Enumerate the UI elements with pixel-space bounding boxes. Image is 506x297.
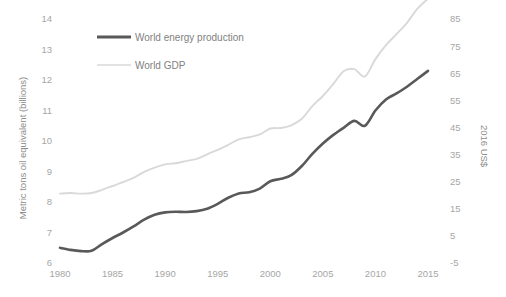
y-axis-right-title: 2016 US$ (479, 125, 490, 168)
y-left-tick-label: 10 (41, 135, 52, 146)
legend-label-1: World energy production (135, 32, 244, 43)
y-right-tick-label: 5 (450, 230, 455, 241)
y-left-tick-label: 8 (47, 196, 52, 207)
y-right-tick-label: 15 (450, 203, 461, 214)
dual-axis-line-chart: 67891011121314 -551525354555657585 19801… (0, 0, 506, 297)
y-left-tick-label: 14 (41, 13, 52, 24)
y-right-tick-label: -5 (450, 257, 458, 268)
chart-container: 67891011121314 -551525354555657585 19801… (0, 0, 506, 297)
y-left-tick-label: 7 (47, 227, 52, 238)
x-tick-label: 1985 (102, 268, 123, 279)
x-tick-label: 1990 (155, 268, 176, 279)
legend-label-2: World GDP (135, 60, 186, 71)
y-right-tick-label: 85 (450, 13, 461, 24)
y-right-tick-label: 25 (450, 176, 461, 187)
y-right-tick-label: 55 (450, 95, 461, 106)
x-tick-label: 2015 (417, 268, 438, 279)
x-tick-label: 2010 (365, 268, 386, 279)
y-axis-left-title: Metric tons oil equivalent (billions) (17, 77, 28, 220)
x-tick-label: 2000 (260, 268, 281, 279)
y-left-tick-label: 6 (47, 257, 52, 268)
y-left-tick-label: 9 (47, 166, 52, 177)
chart-background (0, 0, 506, 297)
y-right-tick-label: 35 (450, 149, 461, 160)
x-tick-label: 1995 (207, 268, 228, 279)
x-tick-label: 1980 (49, 268, 70, 279)
y-left-tick-label: 13 (41, 44, 52, 55)
y-right-tick-label: 45 (450, 122, 461, 133)
y-left-tick-label: 12 (41, 74, 52, 85)
x-tick-label: 2005 (312, 268, 333, 279)
y-right-tick-label: 65 (450, 68, 461, 79)
y-right-tick-label: 75 (450, 41, 461, 52)
y-left-tick-label: 11 (42, 105, 52, 116)
